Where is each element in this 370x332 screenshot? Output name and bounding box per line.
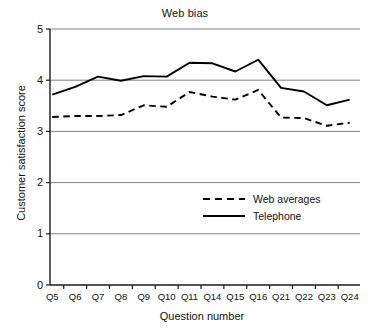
plot-svg — [50, 29, 360, 285]
y-tick-label: 0 — [17, 280, 43, 291]
axis-tickmarks — [46, 29, 338, 289]
series-line-web-averages — [52, 90, 349, 126]
series-lines — [52, 60, 349, 126]
legend-label-web-averages: Web averages — [253, 193, 321, 205]
chart-container: Web bias Customer satisfaction score Que… — [0, 0, 370, 332]
chart-title: Web bias — [0, 7, 370, 19]
series-line-telephone — [52, 60, 349, 106]
x-tick-label-q24: Q24 — [336, 291, 364, 302]
legend-label-telephone: Telephone — [253, 210, 301, 222]
y-tick-label: 5 — [17, 24, 43, 35]
y-axis-title: Customer satisfaction score — [14, 18, 28, 288]
y-tick-label: 3 — [17, 126, 43, 137]
y-tick-label: 1 — [17, 228, 43, 239]
y-tick-label: 4 — [17, 75, 43, 86]
gridlines — [50, 29, 360, 285]
plot-area — [50, 29, 360, 285]
chart-legend: Web averages Telephone — [202, 190, 321, 224]
x-axis-title: Question number — [44, 310, 360, 322]
legend-swatch-dashed-line-icon — [202, 193, 246, 205]
y-tick-label: 2 — [17, 177, 43, 188]
legend-item-web-averages: Web averages — [202, 190, 321, 207]
legend-swatch-solid-line-icon — [202, 210, 246, 222]
legend-item-telephone: Telephone — [202, 207, 321, 224]
